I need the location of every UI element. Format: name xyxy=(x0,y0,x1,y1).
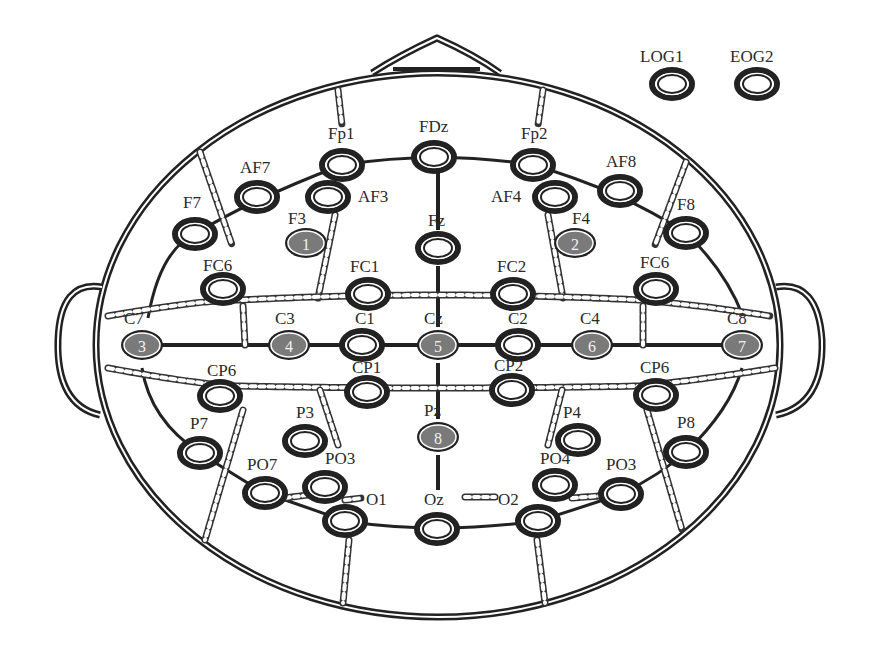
electrode-fp2[interactable]: Fp2 xyxy=(513,124,553,179)
electrode-label: C7 xyxy=(124,309,144,328)
electrode-fp1[interactable]: Fp1 xyxy=(322,124,362,179)
nose xyxy=(372,38,500,73)
electrode-label: AF8 xyxy=(606,152,636,171)
electrode-label: CP6 xyxy=(207,361,236,380)
electrode-c2[interactable]: C2 xyxy=(498,309,538,359)
electrode-af3[interactable]: AF3 xyxy=(308,183,388,211)
electrode-number: 8 xyxy=(434,430,442,447)
electrode-label: P3 xyxy=(296,403,314,422)
extra-channel-log1[interactable]: LOG1 xyxy=(640,47,692,98)
electrode-label: P7 xyxy=(190,414,208,433)
electrode-af4[interactable]: AF4 xyxy=(491,183,575,211)
electrode-af7[interactable]: AF7 xyxy=(237,158,277,211)
electrode-label: F4 xyxy=(572,209,590,228)
electrode-label: C3 xyxy=(275,309,295,328)
electrode-label: P8 xyxy=(677,413,695,432)
electrode-label: Cz xyxy=(424,309,443,328)
electrode-number: 3 xyxy=(138,338,146,355)
electrode-number: 6 xyxy=(588,338,596,355)
extra-channel-layer: LOG1EOG2 xyxy=(640,47,777,98)
channel-label: LOG1 xyxy=(640,47,683,66)
electrode-af8[interactable]: AF8 xyxy=(600,152,640,205)
electrode-po3[interactable]: PO3 xyxy=(601,455,641,508)
electrode-fc2[interactable]: FC2 xyxy=(493,257,533,308)
electrode-label: FC6 xyxy=(640,253,669,272)
electrode-p7[interactable]: P7 xyxy=(180,414,220,467)
reference-electrode-f3[interactable]: 1F3 xyxy=(285,209,327,258)
electrode-label: Fp2 xyxy=(521,124,547,143)
electrode-number: 5 xyxy=(434,338,442,355)
electrode-cp6[interactable]: CP6 xyxy=(200,361,240,410)
electrode-label: PO3 xyxy=(606,455,636,474)
electrode-p4[interactable]: P4 xyxy=(558,403,598,454)
electrode-po7[interactable]: PO7 xyxy=(245,455,285,507)
electrode-label: PO3 xyxy=(325,449,355,468)
electrode-cp1[interactable]: CP1 xyxy=(347,358,387,406)
electrode-label: FC1 xyxy=(350,257,379,276)
electrode-fc1[interactable]: FC1 xyxy=(348,257,388,308)
reference-electrode-pz[interactable]: 8Pz xyxy=(417,401,459,452)
electrode-label: CP1 xyxy=(352,358,381,377)
reference-electrode-f4[interactable]: 2F4 xyxy=(554,209,596,258)
reference-electrode-c3[interactable]: 4C3 xyxy=(268,309,310,360)
electrode-label: AF4 xyxy=(491,187,522,206)
electrode-label: AF3 xyxy=(358,187,388,206)
electrode-fc6[interactable]: FC6 xyxy=(636,253,676,303)
electrode-label: Fp1 xyxy=(328,124,354,143)
electrode-label: O2 xyxy=(498,490,519,509)
electrode-fz[interactable]: Fz xyxy=(418,211,458,262)
electrode-cp6[interactable]: CP6 xyxy=(636,358,676,409)
electrode-po4[interactable]: PO4 xyxy=(535,449,575,499)
electrode-label: C2 xyxy=(508,309,528,328)
electrode-f7[interactable]: F7 xyxy=(175,193,215,248)
electrode-label: F3 xyxy=(288,209,306,228)
electrode-label: C8 xyxy=(727,309,747,328)
electrode-label: PO4 xyxy=(540,449,571,468)
electrode-label: Oz xyxy=(424,490,444,509)
electrode-label: C4 xyxy=(580,309,600,328)
eeg-head-diagram: Fp1FDzFp2AF7AF3AF4AF8F7FzF8FC6FC1FC2FC6C… xyxy=(0,0,870,650)
electrode-number: 2 xyxy=(571,236,579,253)
electrode-p8[interactable]: P8 xyxy=(666,413,706,466)
channel-label: EOG2 xyxy=(730,47,773,66)
electrode-layer: Fp1FDzFp2AF7AF3AF4AF8F7FzF8FC6FC1FC2FC6C… xyxy=(175,117,706,543)
electrode-fc6[interactable]: FC6 xyxy=(203,256,243,303)
electrode-label: F7 xyxy=(183,193,201,212)
reference-electrode-cz[interactable]: 5Cz xyxy=(417,309,459,360)
electrode-label: O1 xyxy=(366,490,387,509)
electrode-number: 4 xyxy=(285,338,293,355)
electrode-label: C1 xyxy=(355,309,375,328)
electrode-label: CP2 xyxy=(494,356,523,375)
electrode-label: PO7 xyxy=(247,455,278,474)
electrode-cp2[interactable]: CP2 xyxy=(492,356,532,404)
electrode-fdz[interactable]: FDz xyxy=(414,117,454,171)
reference-electrode-c7[interactable]: 3C7 xyxy=(121,309,163,360)
electrode-number: 7 xyxy=(738,338,746,355)
electrode-label: Fz xyxy=(428,211,445,230)
electrode-label: F8 xyxy=(677,195,695,214)
electrode-c1[interactable]: C1 xyxy=(342,309,382,359)
reference-electrode-c4[interactable]: 6C4 xyxy=(571,309,613,360)
electrode-label: P4 xyxy=(563,403,581,422)
electrode-label: FC2 xyxy=(497,257,526,276)
electrode-label: Pz xyxy=(424,401,441,420)
electrode-oz[interactable]: Oz xyxy=(417,490,457,543)
electrode-label: FC6 xyxy=(203,256,232,275)
electrode-label: AF7 xyxy=(240,158,271,177)
extra-channel-eog2[interactable]: EOG2 xyxy=(730,47,777,98)
electrode-p3[interactable]: P3 xyxy=(285,403,325,455)
electrode-label: FDz xyxy=(419,117,449,136)
electrode-number: 1 xyxy=(302,236,310,253)
electrode-label: CP6 xyxy=(640,358,669,377)
